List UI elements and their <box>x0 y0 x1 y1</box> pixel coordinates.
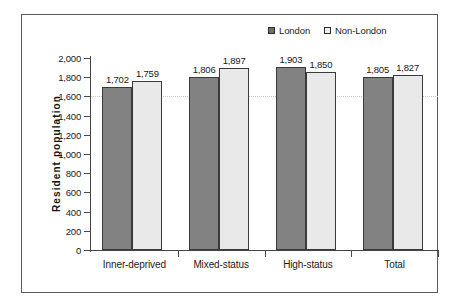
bar-value-label: 1,827 <box>387 62 429 73</box>
bar-non-london-total[interactable] <box>393 75 423 250</box>
legend-swatch-non-london-icon <box>324 27 331 34</box>
y-axis-tick-label: 1,400 <box>58 110 81 121</box>
y-axis-tick-label: 1,200 <box>58 129 81 140</box>
chart-screenshot: London Non-London Resident population 2,… <box>0 0 458 307</box>
y-axis-tick-label: 2,000 <box>58 53 81 64</box>
bar-non-london-inner-deprived[interactable] <box>132 81 162 250</box>
legend-label-london: London <box>279 25 310 36</box>
legend-item-non-london[interactable]: Non-London <box>324 25 386 36</box>
y-axis-tick-label: 800 <box>66 168 81 179</box>
x-axis-separator-tick <box>178 250 179 257</box>
y-axis-tick-label: 1,800 <box>58 72 81 83</box>
x-axis-end-tick <box>438 250 439 257</box>
bar-london-total[interactable] <box>363 77 393 250</box>
bar-value-label: 1,759 <box>126 68 168 79</box>
y-axis-tick-label: 1,000 <box>58 149 81 160</box>
x-axis-category-label: Mixed-status <box>178 259 265 270</box>
y-axis-tick-label: 200 <box>66 225 81 236</box>
bar-non-london-mixed-status[interactable] <box>219 68 249 250</box>
x-axis-separator-tick <box>265 250 266 257</box>
x-axis-category-label: Total <box>351 259 438 270</box>
legend-label-non-london: Non-London <box>335 25 386 36</box>
bar-london-high-status[interactable] <box>276 67 306 250</box>
bar-london-mixed-status[interactable] <box>189 77 219 250</box>
y-axis-line <box>90 56 91 252</box>
bar-value-label: 1,850 <box>300 59 342 70</box>
bar-non-london-high-status[interactable] <box>306 72 336 250</box>
y-axis-tick-label: 400 <box>66 206 81 217</box>
y-axis-tick-label: 600 <box>66 187 81 198</box>
chart-legend: London Non-London <box>268 25 386 36</box>
y-axis-tick-label: 1,600 <box>58 91 81 102</box>
x-axis-separator-tick <box>351 250 352 257</box>
x-axis-category-label: High-status <box>265 259 352 270</box>
bar-london-inner-deprived[interactable] <box>102 87 132 250</box>
y-axis-tick-label: 0 <box>76 245 81 256</box>
legend-item-london[interactable]: London <box>268 25 310 36</box>
bar-value-label: 1,897 <box>213 55 255 66</box>
x-axis-category-label: Inner-deprived <box>91 259 178 270</box>
legend-swatch-london-icon <box>268 27 275 34</box>
y-axis-scale: 2,0001,8001,6001,4001,2001,0008006004002… <box>40 0 90 307</box>
